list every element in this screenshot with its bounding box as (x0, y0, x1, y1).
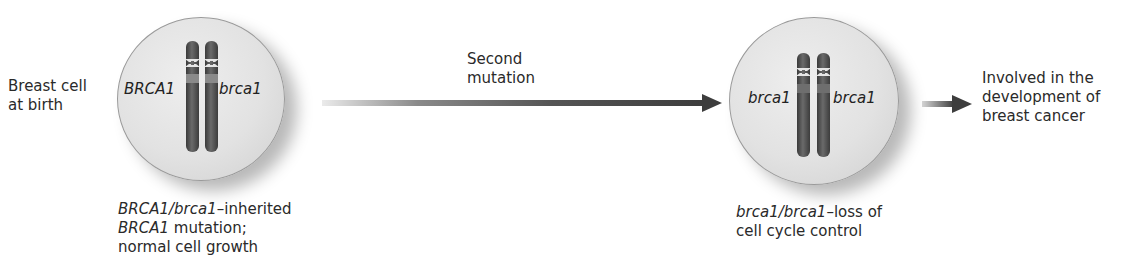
chromosome-left-icon (797, 53, 810, 157)
cell2-caption: brca1/brca1–loss of cell cycle control (736, 203, 882, 241)
cell2-caption-control: cell cycle control (736, 222, 882, 241)
cell1-caption-inherited: –inherited (217, 200, 292, 218)
transition-label-line2: mutation (467, 69, 535, 88)
start-label: Breast cell at birth (8, 77, 87, 115)
start-label-line1: Breast cell (8, 77, 87, 96)
outcome-label: Involved in the development of breast ca… (982, 69, 1100, 126)
cell1-caption-growth: normal cell growth (118, 238, 292, 257)
gene-label-brca1-right: brca1 (833, 89, 876, 107)
cell2-caption-genotype: brca1/brca1 (736, 203, 826, 221)
breast-cell-at-birth (117, 17, 285, 181)
chromosome-right-icon (205, 41, 218, 152)
cell1-caption: BRCA1/brca1–inherited BRCA1 mutation; no… (118, 200, 292, 257)
outcome-label-line2: development of (982, 88, 1100, 107)
outcome-label-line1: Involved in the (982, 69, 1100, 88)
cell1-caption-gene: BRCA1 (118, 219, 169, 237)
second-mutation-arrow (322, 100, 704, 106)
gene-label-brca1: brca1 (219, 80, 262, 98)
cell2-caption-loss: –loss of (826, 203, 882, 221)
outcome-label-line3: breast cancer (982, 107, 1100, 126)
arrow-head-icon (952, 95, 972, 113)
start-label-line2: at birth (8, 96, 87, 115)
cell1-caption-genotype: BRCA1/brca1 (118, 200, 217, 218)
cell1-caption-mutation: mutation; (169, 219, 247, 237)
outcome-arrow (922, 101, 954, 107)
transition-label: Second mutation (467, 50, 535, 88)
gene-label-brca1-left: brca1 (748, 89, 791, 107)
gene-label-BRCA1: BRCA1 (124, 80, 175, 98)
transition-label-line1: Second (467, 50, 535, 69)
chromosome-left-icon (186, 41, 199, 152)
chromosome-right-icon (817, 53, 830, 157)
arrow-head-icon (702, 94, 722, 112)
